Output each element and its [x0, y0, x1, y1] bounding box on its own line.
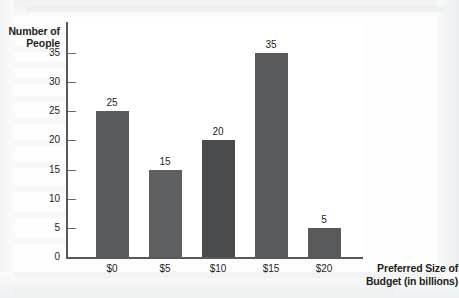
y-axis-tick-label: 20: [30, 135, 60, 145]
bar-chart: Number of People 05101520253035 25152035…: [0, 0, 459, 298]
y-axis-tick: [68, 53, 76, 54]
y-axis-tick-label: 0: [30, 252, 60, 262]
y-axis-tick: [68, 199, 76, 200]
bar-value-label: 20: [198, 127, 238, 137]
y-axis-tick: [68, 170, 76, 171]
x-axis-tick-label: $0: [89, 263, 135, 274]
x-axis-title-line1: Preferred Size of: [364, 262, 458, 275]
bar: [255, 53, 288, 257]
x-axis-tick-label: $5: [142, 263, 188, 274]
bar: [308, 228, 341, 257]
y-axis-tick: [68, 111, 76, 112]
y-axis-tick-label: 15: [30, 165, 60, 175]
chart-screenshot: Number of People 05101520253035 25152035…: [0, 0, 459, 298]
y-axis-tick-label: 35: [30, 48, 60, 58]
bar: [202, 140, 235, 257]
y-axis-tick-label: 30: [30, 77, 60, 87]
x-axis-tick-label: $10: [195, 263, 241, 274]
x-axis-tick-label: $15: [248, 263, 294, 274]
bar-value-label: 15: [145, 157, 185, 167]
y-axis-title-line1: Number of: [0, 25, 60, 37]
bar-value-label: 25: [92, 98, 132, 108]
x-axis-title-line2: Budget (in billions): [364, 275, 458, 288]
y-axis-tick: [68, 82, 76, 83]
y-axis-title: Number of People: [0, 25, 60, 49]
y-axis-tick-label: 25: [30, 106, 60, 116]
y-axis-tick-label: 10: [30, 194, 60, 204]
y-axis-tick: [68, 140, 76, 141]
bar: [149, 170, 182, 257]
y-axis-tick: [68, 228, 76, 229]
bar-value-label: 5: [304, 215, 344, 225]
bar: [96, 111, 129, 257]
x-axis-title: Preferred Size of Budget (in billions): [364, 262, 458, 288]
x-axis-line: [66, 257, 363, 259]
bar-value-label: 35: [251, 40, 291, 50]
y-axis-tick-label: 5: [30, 223, 60, 233]
x-axis-tick-label: $20: [301, 263, 347, 274]
